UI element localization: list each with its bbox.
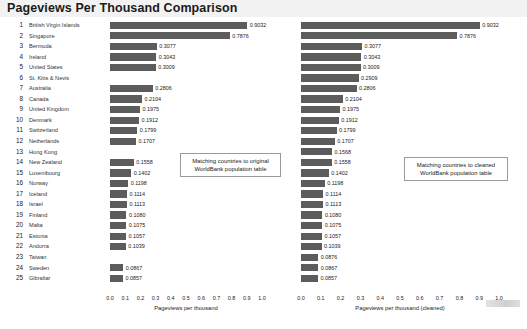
- axis-tick: 0.4: [376, 295, 384, 301]
- axis-tick: 0.4: [167, 295, 175, 301]
- bar-value-label: 0.2806: [155, 83, 172, 94]
- table-row: 9United Kingdom0.19750.1975: [0, 104, 527, 115]
- bar[interactable]: [110, 95, 142, 102]
- bar[interactable]: [301, 74, 359, 81]
- bar[interactable]: [301, 275, 318, 282]
- bar[interactable]: [301, 243, 322, 250]
- bar[interactable]: [110, 127, 137, 134]
- bar[interactable]: [110, 180, 128, 187]
- bar[interactable]: [301, 233, 322, 240]
- row-index: 17: [8, 189, 23, 200]
- row-index: 20: [8, 220, 23, 231]
- bar[interactable]: [110, 85, 153, 92]
- country-label: Hong Kong: [29, 147, 57, 158]
- bar[interactable]: [301, 264, 318, 271]
- bar[interactable]: [301, 254, 318, 261]
- bar[interactable]: [110, 211, 126, 218]
- axis-tick: 0.0: [106, 295, 114, 301]
- bar[interactable]: [110, 138, 136, 145]
- row-index: 21: [8, 231, 23, 242]
- country-label: Andorra: [29, 241, 49, 252]
- bar-track-right: 0.0857: [301, 273, 499, 284]
- axis-tick: 0.3: [357, 295, 365, 301]
- bar-track-left: 0.1799: [110, 125, 262, 136]
- bar[interactable]: [301, 22, 480, 29]
- bar-track-left: 0.0857: [110, 273, 262, 284]
- bar[interactable]: [110, 32, 230, 39]
- bar-value-label: 0.1114: [326, 189, 342, 200]
- country-label: Singapore: [29, 31, 55, 42]
- bar-track-left: 0.1707: [110, 136, 262, 147]
- bar-track-right: 0.1039: [301, 241, 499, 252]
- bar[interactable]: [301, 95, 343, 102]
- bar-value-label: 0.1113: [129, 199, 145, 210]
- bar[interactable]: [110, 106, 140, 113]
- row-index: 22: [8, 241, 23, 252]
- bar-track-left: 0.1080: [110, 210, 262, 221]
- bar[interactable]: [301, 53, 361, 60]
- bar[interactable]: [110, 264, 123, 271]
- bar-track-left: 0.9032: [110, 20, 262, 31]
- bar-value-label: 0.1707: [337, 136, 354, 147]
- bar[interactable]: [301, 169, 329, 176]
- bar[interactable]: [301, 159, 332, 166]
- table-row: 25Gibraltar0.08570.0857: [0, 273, 527, 284]
- table-row: 2Singapore0.78760.7876: [0, 31, 527, 42]
- bar[interactable]: [301, 180, 325, 187]
- bar-track-right: 0.1975: [301, 104, 499, 115]
- row-index: 15: [8, 168, 23, 179]
- bar[interactable]: [301, 138, 335, 145]
- country-label: Estonia: [29, 231, 48, 242]
- bar[interactable]: [110, 201, 127, 208]
- bar[interactable]: [301, 222, 322, 229]
- axis-tick: 0.6: [197, 295, 205, 301]
- country-label: Taiwan: [29, 252, 46, 263]
- bar[interactable]: [110, 117, 139, 124]
- bar[interactable]: [110, 233, 126, 240]
- bar[interactable]: [301, 148, 332, 155]
- bar[interactable]: [301, 85, 357, 92]
- bar[interactable]: [301, 106, 340, 113]
- country-label: St. Kitts & Nevis: [29, 73, 69, 84]
- bar-track-left: 0.1075: [110, 220, 262, 231]
- row-index: 16: [8, 178, 23, 189]
- bar[interactable]: [301, 190, 323, 197]
- row-index: 3: [8, 41, 23, 52]
- bar[interactable]: [301, 127, 337, 134]
- bar[interactable]: [110, 43, 157, 50]
- bar-track-right: 0.7876: [301, 31, 499, 42]
- bar[interactable]: [301, 117, 339, 124]
- table-row: 19Finland0.10800.1080: [0, 210, 527, 221]
- axis-tick: 0.5: [396, 295, 404, 301]
- table-row: 11Switzerland0.17990.1799: [0, 125, 527, 136]
- bar[interactable]: [110, 222, 126, 229]
- bar[interactable]: [110, 169, 131, 176]
- row-index: 1: [8, 20, 23, 31]
- bar[interactable]: [301, 201, 323, 208]
- bar-track-left: 0.2104: [110, 94, 262, 105]
- table-row: 10Denmark0.19120.1912: [0, 115, 527, 126]
- bar[interactable]: [301, 64, 361, 71]
- bar-value-label: 0.0867: [321, 263, 338, 274]
- bar-track-right: 0.1707: [301, 136, 499, 147]
- bar[interactable]: [301, 211, 322, 218]
- bar[interactable]: [110, 190, 127, 197]
- bar[interactable]: [110, 53, 156, 60]
- bar[interactable]: [301, 32, 457, 39]
- bar[interactable]: [110, 22, 247, 29]
- bar-value-label: 0.1402: [331, 168, 348, 179]
- bar-value-label: 0.9032: [482, 20, 499, 31]
- bar[interactable]: [110, 243, 126, 250]
- bar[interactable]: [110, 64, 156, 71]
- bar-track-left: [110, 73, 262, 84]
- bar-value-label: 0.3009: [363, 62, 380, 73]
- bar-value-label: 0.1568: [335, 147, 352, 158]
- bar[interactable]: [301, 43, 362, 50]
- bar-track-right: 0.1080: [301, 210, 499, 221]
- bar[interactable]: [110, 159, 134, 166]
- bar-track-left: 0.1057: [110, 231, 262, 242]
- bar-value-label: 0.1799: [140, 125, 157, 136]
- bar-value-label: 0.1198: [327, 178, 343, 189]
- bar-track-left: 0.1975: [110, 104, 262, 115]
- bar[interactable]: [110, 275, 123, 282]
